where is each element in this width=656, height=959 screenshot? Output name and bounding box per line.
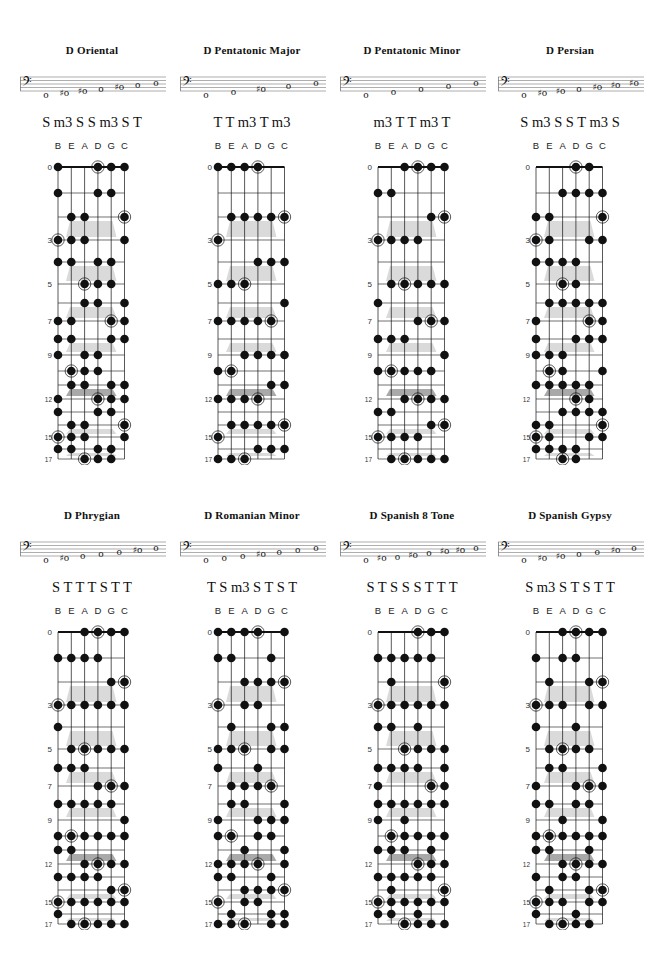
root-note-dot [80,745,89,754]
note-dot [387,898,396,907]
root-note-dot [572,628,581,637]
fretboard-diagram: 03579121517 [12,465,172,930]
root-note-dot [558,280,567,289]
note-dot [54,189,63,198]
note-dot [54,317,63,326]
note-dot [414,701,423,710]
note-dot [585,381,594,390]
note-dot [107,628,116,637]
note-dot [545,800,554,809]
fret-number-label: 0 [208,163,213,172]
note-dot [120,299,129,308]
note-dot [227,723,236,732]
note-dot [387,236,396,245]
root-note-dot [598,678,607,687]
note-dot [240,800,249,809]
fret-inlay-marker [226,389,277,396]
note-dot [267,920,276,929]
root-note-dot [80,280,89,289]
note-dot [120,163,129,172]
note-dot [80,236,89,245]
note-dot [427,628,436,637]
fretboard-diagram: 03579121517 [490,465,650,930]
note-dot [572,455,581,464]
note-dot [400,654,409,663]
note-dot [427,654,436,663]
note-dot [267,832,276,841]
fret-number-label: 5 [526,745,531,754]
note-dot [572,280,581,289]
note-dot [585,628,594,637]
fret-number-label: 7 [48,782,53,791]
root-note-dot [67,832,76,841]
note-dot [387,408,396,417]
root-note-dot [120,213,129,222]
note-dot [254,816,263,825]
note-dot [254,764,263,773]
note-dot [267,445,276,454]
note-dot [427,832,436,841]
note-dot [107,395,116,404]
note-dot [572,782,581,791]
fret-inlay-marker [226,894,277,899]
fret-inlay-marker [544,808,595,817]
note-dot [267,258,276,267]
note-dot [400,816,409,825]
note-dot [400,764,409,773]
note-dot [227,421,236,430]
note-dot [267,678,276,687]
note-dot [427,367,436,376]
fret-inlay-marker [66,686,117,702]
root-note-dot [94,395,103,404]
note-dot [280,910,289,919]
fret-number-label: 9 [48,351,53,360]
note-dot [572,654,581,663]
note-dot [440,764,449,773]
note-dot [400,433,409,442]
note-dot [545,701,554,710]
root-note-dot [545,832,554,841]
fret-inlay-marker [544,307,595,318]
note-dot [427,455,436,464]
note-dot [400,701,409,710]
fret-number-label: 17 [523,921,531,928]
fret-number-label: 12 [523,861,531,868]
note-dot [67,433,76,442]
note-dot [94,898,103,907]
fret-inlay-marker [386,389,437,396]
note-dot [598,189,607,198]
note-dot [572,920,581,929]
note-dot [572,723,581,732]
root-note-dot [214,433,223,442]
note-dot [414,873,423,882]
fretboard-diagram: 03579121517 [172,465,332,930]
note-dot [120,782,129,791]
fret-inlay-marker [226,686,277,702]
note-dot [267,873,276,882]
note-dot [558,258,567,267]
fret-inlay-marker [66,221,117,237]
fret-number-label: 17 [205,921,213,928]
note-dot [545,236,554,245]
note-dot [94,367,103,376]
root-note-dot [558,745,567,754]
note-dot [545,886,554,895]
note-dot [107,455,116,464]
root-note-dot [572,395,581,404]
note-dot [374,335,383,344]
note-dot [227,280,236,289]
root-note-dot [54,236,63,245]
note-dot [240,395,249,404]
note-dot [120,920,129,929]
root-note-dot [572,163,581,172]
note-dot [67,381,76,390]
note-dot [267,213,276,222]
note-dot [532,873,541,882]
root-note-dot [280,213,289,222]
fret-inlay-marker [226,808,277,817]
root-note-dot [572,860,581,869]
note-dot [54,910,63,919]
note-dot [387,764,396,773]
note-dot [107,163,116,172]
note-dot [267,381,276,390]
